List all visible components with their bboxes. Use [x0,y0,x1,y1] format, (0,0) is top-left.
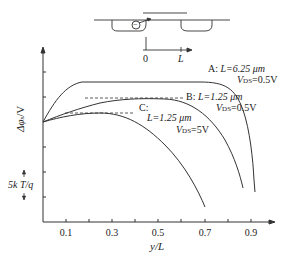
x-axis-arrow-icon [269,220,275,224]
drain-well [181,20,212,31]
curve-A-vds: VDS=0.5V [237,75,277,86]
y-axis-arrow-icon [41,47,45,53]
curve-C-L: L=1.25 μm [147,113,192,123]
scale-bar-label: 5k T/q [8,180,33,190]
curve-C-vds: VDS=5V [176,125,209,136]
inset-L-label: L [178,54,184,64]
diagram-canvas [0,0,301,259]
device-inset [94,13,230,52]
charge-symbol: − [133,20,138,30]
source-well [112,20,146,31]
x-axis-label: y/L [150,241,164,251]
x-tick-0.9: 0.9 [245,227,258,238]
x-tick-0.5: 0.5 [152,227,165,238]
inset-origin-label: 0 [143,54,148,64]
arrowhead-icon [147,18,151,21]
curve-A-label: A: L=6.25 μm [208,64,265,74]
arrowhead-icon [187,48,192,52]
curve-B-label: B: L=1.25 μm [186,92,243,102]
x-tick-0.3: 0.3 [106,227,119,238]
x-tick-0.7: 0.7 [199,227,212,238]
x-tick-0.1: 0.1 [60,227,73,238]
y-axis-label: Δφs/V [14,106,26,132]
curve-B-vds: VDS=0.5V [216,103,256,114]
